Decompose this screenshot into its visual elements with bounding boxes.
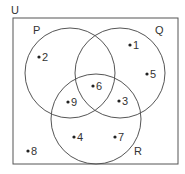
dot-icon: [128, 43, 131, 46]
element-6: 6: [91, 80, 102, 92]
svg-text:6: 6: [96, 80, 102, 92]
svg-text:1: 1: [133, 39, 139, 51]
set-r-label: R: [134, 145, 142, 157]
svg-text:2: 2: [42, 51, 48, 63]
element-8: 8: [26, 145, 37, 157]
element-2: 2: [37, 51, 48, 63]
svg-text:4: 4: [77, 131, 83, 143]
dot-icon: [26, 149, 29, 152]
element-3: 3: [117, 95, 128, 107]
dot-icon: [37, 55, 40, 58]
universe-label: U: [11, 4, 19, 16]
svg-text:3: 3: [122, 95, 128, 107]
element-1: 1: [128, 39, 139, 51]
dot-icon: [117, 99, 120, 102]
set-q-label: Q: [155, 24, 164, 36]
element-4: 4: [72, 131, 83, 143]
svg-text:9: 9: [71, 96, 77, 108]
element-7: 7: [113, 131, 124, 143]
dot-icon: [72, 135, 75, 138]
element-5: 5: [145, 68, 156, 80]
dot-icon: [91, 84, 94, 87]
dot-icon: [145, 72, 148, 75]
dot-icon: [113, 135, 116, 138]
set-p-circle: [25, 28, 115, 118]
set-p-label: P: [33, 24, 40, 36]
element-9: 9: [66, 96, 77, 108]
svg-text:8: 8: [31, 145, 37, 157]
dot-icon: [66, 100, 69, 103]
svg-text:5: 5: [150, 68, 156, 80]
svg-text:7: 7: [118, 131, 124, 143]
venn-diagram: U PQR 125693478: [0, 0, 185, 174]
